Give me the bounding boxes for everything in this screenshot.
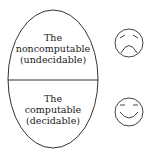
bottom-line-1: The xyxy=(8,93,98,104)
noncomputable-label: The noncomputable (undecidable) xyxy=(8,32,98,65)
top-line-1: The xyxy=(8,32,98,43)
computable-label: The computable (decidable) xyxy=(8,93,98,126)
sad-face-icon xyxy=(115,29,143,57)
bottom-line-3: (decidable) xyxy=(8,115,98,126)
diagram-canvas xyxy=(0,0,150,156)
top-line-3: (undecidable) xyxy=(8,54,98,65)
set-ellipse xyxy=(8,10,98,148)
bottom-line-2: computable xyxy=(8,104,98,115)
happy-face-icon xyxy=(115,98,143,126)
top-line-2: noncomputable xyxy=(8,43,98,54)
